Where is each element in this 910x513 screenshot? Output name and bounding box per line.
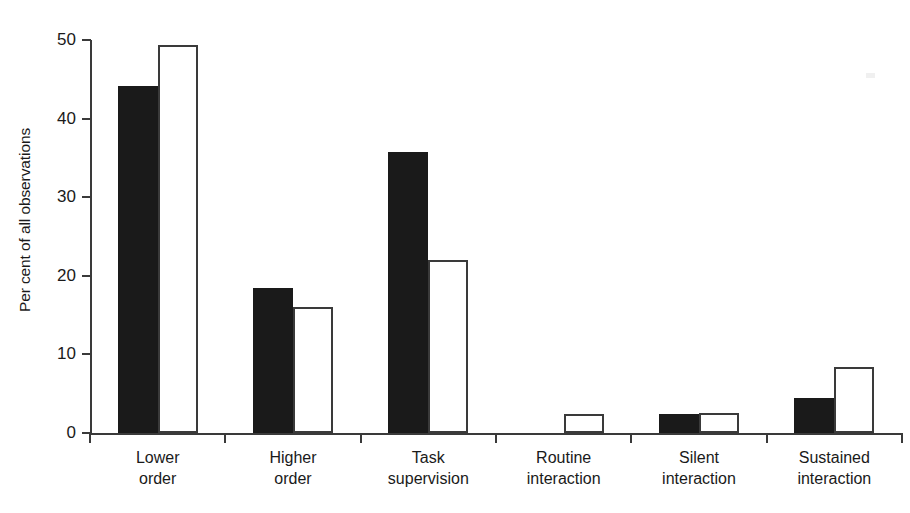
bar-series-1-1 xyxy=(253,288,293,433)
category-label-5: Sustainedinteraction xyxy=(767,447,902,489)
plot-area xyxy=(90,40,902,433)
bar-series-1-4 xyxy=(659,414,699,433)
bar-group xyxy=(631,40,766,433)
x-tick-6 xyxy=(901,433,903,443)
x-tick-1 xyxy=(224,433,226,443)
x-tick-4 xyxy=(630,433,632,443)
bar-group xyxy=(767,40,902,433)
bar-series-2-2 xyxy=(428,260,468,433)
y-tick-label-20: 20 xyxy=(30,267,76,284)
x-tick-2 xyxy=(360,433,362,443)
y-tick-label-30: 30 xyxy=(30,188,76,205)
x-tick-5 xyxy=(766,433,768,443)
x-tick-3 xyxy=(495,433,497,443)
bar-series-2-0 xyxy=(158,45,198,433)
scan-artifact xyxy=(866,73,875,78)
x-tick-0 xyxy=(89,433,91,443)
y-tick-label-40: 40 xyxy=(30,110,76,127)
bar-series-1-0 xyxy=(118,86,158,433)
category-label-0: Lowerorder xyxy=(90,447,225,489)
category-label-3: Routineinteraction xyxy=(496,447,631,489)
bar-group xyxy=(90,40,225,433)
category-label-4: Silentinteraction xyxy=(631,447,766,489)
bar-group xyxy=(361,40,496,433)
bar-series-2-5 xyxy=(834,367,874,433)
y-tick-label-0: 0 xyxy=(30,424,76,441)
category-label-1: Higherorder xyxy=(225,447,360,489)
bar-series-1-5 xyxy=(794,398,834,433)
bar-series-2-4 xyxy=(699,413,739,433)
y-tick-label-10: 10 xyxy=(30,345,76,362)
bar-series-2-3 xyxy=(564,414,604,433)
y-tick-label-50: 50 xyxy=(30,31,76,48)
bar-group xyxy=(496,40,631,433)
category-label-2: Tasksupervision xyxy=(361,447,496,489)
bar-series-2-1 xyxy=(293,307,333,433)
bar-chart: Per cent of all observations 01020304050… xyxy=(0,0,910,513)
bar-series-1-2 xyxy=(388,152,428,433)
bar-group xyxy=(225,40,360,433)
